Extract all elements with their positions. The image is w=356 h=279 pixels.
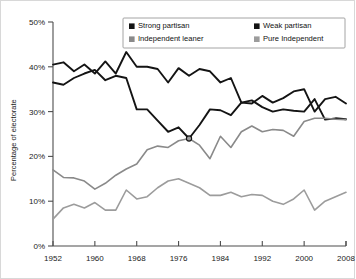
legend-swatch (129, 23, 135, 29)
y-tick-label: 0% (33, 242, 45, 251)
legend-label: Independent leaner (138, 34, 204, 43)
x-tick-label: 1992 (253, 254, 271, 263)
data-series-group (53, 52, 346, 219)
legend-swatch (254, 23, 260, 29)
y-tick-label: 40% (29, 63, 45, 72)
x-tick-label: 2000 (295, 254, 313, 263)
y-tick-label: 20% (29, 152, 45, 161)
legend-label: Strong partisan (138, 21, 190, 30)
legend-label: Weak partisan (263, 21, 311, 30)
series-line-pure-independent (53, 179, 346, 219)
legend: Strong partisanWeak partisanIndependent … (123, 18, 345, 48)
annotation-crossing-marker (186, 136, 191, 141)
y-axis-label: Percentage of electorate (9, 99, 18, 181)
series-line-weak-partisan (53, 52, 346, 120)
x-tick-label: 1976 (170, 254, 188, 263)
y-axis-title: Percentage of electorate (9, 99, 18, 181)
x-tick-label: 1984 (212, 254, 230, 263)
y-tick-label: 30% (29, 108, 45, 117)
series-line-independent-leaner (53, 118, 346, 189)
line-chart: Percentage of electorate 0%10%20%30%40%5… (1, 1, 356, 279)
y-axis-ticks: 0%10%20%30%40%50% (29, 18, 53, 251)
x-tick-label: 1952 (44, 254, 62, 263)
x-tick-label: 1968 (128, 254, 146, 263)
series-line-strong-partisan (53, 70, 346, 139)
legend-swatch (254, 36, 260, 42)
y-tick-label: 10% (29, 197, 45, 206)
x-tick-label: 2008 (337, 254, 355, 263)
y-tick-label: 50% (29, 18, 45, 27)
annotations-group (186, 136, 191, 141)
legend-label: Pure Independent (263, 34, 324, 43)
x-axis-ticks: 19521960196819761984199220002008 (44, 241, 355, 263)
legend-swatch (129, 36, 135, 42)
x-tick-label: 1960 (86, 254, 104, 263)
chart-svg: Percentage of electorate 0%10%20%30%40%5… (1, 1, 356, 279)
